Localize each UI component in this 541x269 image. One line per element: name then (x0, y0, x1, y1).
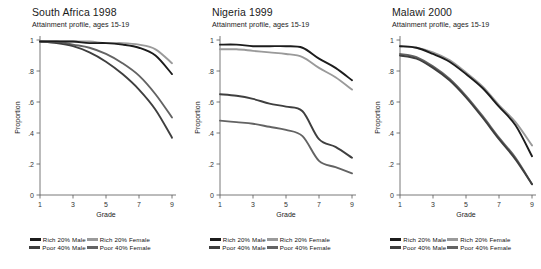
legend-item-rich-female: Rich 20% Female (447, 236, 510, 243)
chart-title: South Africa 1998 (32, 6, 117, 18)
x-tick-label: 5 (464, 201, 468, 208)
y-tick-label: .2 (208, 161, 214, 168)
y-tick-label: .4 (28, 130, 34, 137)
legend-label: Rich 20% Female (100, 236, 150, 243)
legend-swatch-icon (209, 246, 220, 248)
y-tick-label: 0 (390, 192, 394, 199)
legend-item-rich-female: Rich 20% Female (87, 236, 150, 243)
series-line (40, 41, 172, 74)
legend-swatch-icon (390, 246, 401, 248)
x-axis-title: Grade (456, 211, 476, 218)
legend-item-poor-female: Poor 40% Female (267, 244, 331, 251)
legend-item-poor-female: Poor 40% Female (87, 244, 151, 251)
legend-label: Poor 40% Male (403, 244, 447, 251)
chart-panel-south-africa: South Africa 1998 Attainment profile, ag… (0, 0, 180, 269)
legend-label: Poor 40% Female (100, 244, 151, 251)
y-tick-label: .8 (388, 68, 394, 75)
chart-legend: Rich 20% Male Rich 20% Female Poor 40% M… (180, 236, 360, 251)
legend-label: Rich 20% Female (280, 236, 330, 243)
y-tick-label: .6 (208, 99, 214, 106)
legend-row-poor: Poor 40% Male Poor 40% Female (390, 244, 512, 251)
legend-label: Rich 20% Female (460, 236, 510, 243)
chart-panel-malawi: Malawi 2000 Attainment profile, ages 15-… (360, 0, 541, 269)
series-line (220, 121, 352, 174)
x-tick-label: 3 (431, 201, 435, 208)
legend-row-poor: Poor 40% Male Poor 40% Female (29, 244, 151, 251)
legend-label: Poor 40% Female (280, 244, 331, 251)
legend-swatch-icon (30, 238, 41, 240)
x-tick-label: 7 (137, 201, 141, 208)
y-tick-label: 1 (30, 37, 34, 44)
y-tick-label: 0 (210, 192, 214, 199)
legend-label: Rich 20% Male (403, 236, 446, 243)
chart-panel-nigeria: Nigeria 1999 Attainment profile, ages 15… (180, 0, 360, 269)
legend-row-rich: Rich 20% Male Rich 20% Female (210, 236, 330, 243)
legend-swatch-icon (447, 238, 458, 240)
x-tick-label: 7 (497, 201, 501, 208)
legend-item-rich-male: Rich 20% Male (30, 236, 86, 243)
y-tick-label: .8 (208, 68, 214, 75)
legend-item-poor-male: Poor 40% Male (390, 244, 447, 251)
x-tick-label: 5 (284, 201, 288, 208)
y-axis-title: Proportion (374, 101, 382, 133)
legend-swatch-icon (210, 238, 221, 240)
x-tick-label: 3 (71, 201, 75, 208)
legend-item-rich-male: Rich 20% Male (210, 236, 266, 243)
figure-canvas: South Africa 1998 Attainment profile, ag… (0, 0, 541, 269)
chart-legend: Rich 20% Male Rich 20% Female Poor 40% M… (0, 236, 180, 251)
y-tick-label: .8 (28, 68, 34, 75)
legend-row-rich: Rich 20% Male Rich 20% Female (390, 236, 510, 243)
y-tick-label: .4 (208, 130, 214, 137)
legend-label: Rich 20% Male (223, 236, 266, 243)
legend-swatch-icon (267, 246, 278, 248)
legend-swatch-icon (87, 238, 98, 240)
legend-item-poor-male: Poor 40% Male (209, 244, 266, 251)
legend-swatch-icon (87, 246, 98, 248)
x-tick-label: 1 (38, 201, 42, 208)
y-tick-label: 1 (390, 37, 394, 44)
legend-swatch-icon (29, 246, 40, 248)
chart-title: Malawi 2000 (392, 6, 452, 18)
series-line (400, 46, 532, 156)
x-axis-title: Grade (276, 211, 296, 218)
x-tick-label: 9 (170, 201, 174, 208)
legend-label: Rich 20% Male (43, 236, 86, 243)
x-tick-label: 1 (398, 201, 402, 208)
x-tick-label: 9 (530, 201, 534, 208)
y-tick-label: .4 (388, 130, 394, 137)
legend-item-rich-female: Rich 20% Female (267, 236, 330, 243)
legend-row-rich: Rich 20% Male Rich 20% Female (30, 236, 150, 243)
legend-label: Poor 40% Male (222, 244, 266, 251)
y-tick-label: 0 (30, 192, 34, 199)
chart-legend: Rich 20% Male Rich 20% Female Poor 40% M… (360, 236, 541, 251)
legend-item-poor-female: Poor 40% Female (447, 244, 511, 251)
legend-swatch-icon (267, 238, 278, 240)
x-tick-label: 9 (350, 201, 354, 208)
y-tick-label: .6 (388, 99, 394, 106)
x-tick-label: 7 (317, 201, 321, 208)
plot-area: 0.2.4.6.8113579GradeProportion (180, 28, 360, 233)
x-tick-label: 3 (251, 201, 255, 208)
x-tick-label: 5 (104, 201, 108, 208)
chart-title: Nigeria 1999 (212, 6, 273, 18)
y-tick-label: 1 (210, 37, 214, 44)
plot-area: 0.2.4.6.8113579GradeProportion (0, 28, 180, 233)
plot-area: 0.2.4.6.8113579GradeProportion (360, 28, 541, 233)
legend-swatch-icon (390, 238, 401, 240)
x-axis-title: Grade (96, 211, 116, 218)
y-tick-label: .2 (28, 161, 34, 168)
legend-item-poor-male: Poor 40% Male (29, 244, 86, 251)
y-tick-label: .2 (388, 161, 394, 168)
series-line (220, 49, 352, 89)
legend-label: Poor 40% Female (460, 244, 511, 251)
legend-item-rich-male: Rich 20% Male (390, 236, 446, 243)
y-axis-title: Proportion (14, 101, 22, 133)
y-tick-label: .6 (28, 99, 34, 106)
y-axis-title: Proportion (194, 101, 202, 133)
x-tick-label: 1 (218, 201, 222, 208)
series-line (220, 94, 352, 158)
legend-label: Poor 40% Male (42, 244, 86, 251)
legend-row-poor: Poor 40% Male Poor 40% Female (209, 244, 331, 251)
legend-swatch-icon (447, 246, 458, 248)
